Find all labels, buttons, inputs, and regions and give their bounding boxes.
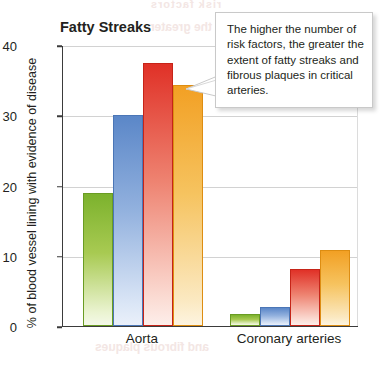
bar: [173, 85, 203, 326]
bar: [143, 63, 173, 326]
x-axis-category-label: Aorta: [126, 331, 158, 346]
y-axis-tick-label: 30: [0, 109, 17, 124]
gridline: [63, 187, 358, 188]
gridline: [63, 116, 358, 117]
chart-title: Fatty Streaks: [60, 19, 151, 35]
x-axis-category-label: Coronary arteries: [237, 331, 341, 346]
bar: [113, 115, 143, 326]
bar: [290, 269, 320, 326]
y-axis-label: % of blood vessel lining with evidence o…: [25, 43, 39, 343]
bar: [260, 307, 290, 326]
page-bleedthrough-top: risk factors: [150, 0, 221, 10]
y-axis-tick-label: 10: [0, 249, 17, 264]
bar: [230, 314, 260, 326]
y-axis-tick-label: 40: [0, 39, 17, 54]
y-axis-tick-label: 0: [0, 320, 17, 335]
bar: [320, 250, 350, 326]
callout-text: The higher the number of risk factors, t…: [227, 23, 364, 96]
callout-annotation: The higher the number of risk factors, t…: [215, 12, 373, 108]
y-axis-tick-label: 20: [0, 179, 17, 194]
bar: [83, 193, 113, 326]
